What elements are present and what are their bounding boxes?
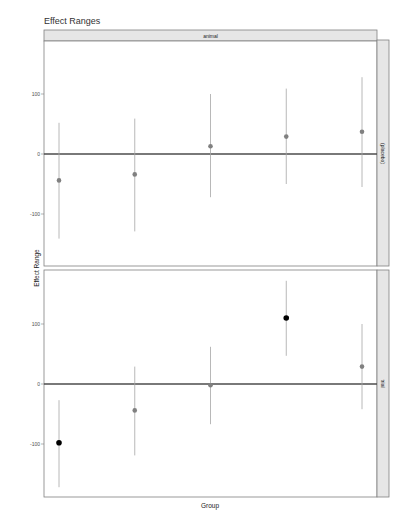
point-estimate	[132, 172, 137, 177]
top-strip-label: animal	[203, 33, 218, 39]
y-tick-label: -100	[30, 441, 40, 447]
y-tick-label: 100	[32, 321, 41, 327]
y-tick-label: 100	[32, 91, 41, 97]
point-highlight	[283, 315, 289, 321]
panel-1-strip-label: (placebo)	[380, 143, 386, 164]
y-tick-label: 0	[37, 381, 40, 387]
chart-title: Effect Ranges	[44, 16, 101, 26]
point-estimate	[132, 408, 137, 413]
effect-ranges-chart: Effect Ranges animal (placebo)-1000100tr…	[0, 0, 409, 526]
point-estimate	[208, 144, 213, 149]
point-estimate	[284, 134, 289, 139]
y-tick-label: 0	[37, 151, 40, 157]
y-axis-label: Effect Range	[33, 249, 41, 287]
panel-2-strip-label: trial	[380, 379, 386, 387]
x-axis-label: Group	[201, 502, 219, 510]
point-estimate	[360, 364, 365, 369]
point-highlight	[56, 440, 62, 446]
point-estimate	[208, 383, 213, 388]
y-tick-label: -100	[30, 211, 40, 217]
panels: (placebo)-1000100trial-1000100	[30, 40, 389, 497]
point-estimate	[360, 130, 365, 135]
point-estimate	[57, 178, 62, 183]
